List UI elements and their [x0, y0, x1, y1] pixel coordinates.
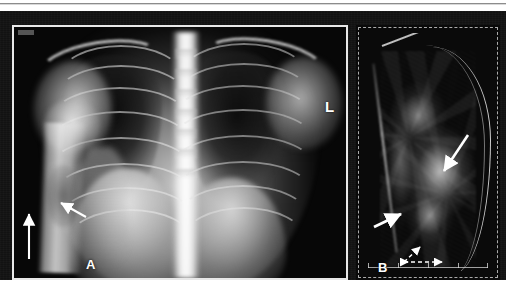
ultrasound-image: [366, 33, 494, 271]
ruler-tick: [368, 263, 369, 268]
medical-figure: L A: [0, 0, 506, 286]
panel-a-label: A: [86, 258, 95, 271]
panel-b-label: B: [378, 261, 387, 274]
exposure-tag: [18, 30, 34, 35]
ruler-tick: [458, 263, 459, 268]
bone-lesion: [46, 165, 80, 227]
side-marker-l: L: [325, 99, 335, 114]
ruler-tick: [428, 263, 429, 268]
chest-xray-image: L A: [14, 27, 346, 278]
panel-b-ultrasound: B: [356, 25, 500, 280]
panel-a-chest-radiograph: L A: [12, 25, 348, 280]
ruler-tick: [487, 263, 488, 268]
axillary-soft-tissue: [76, 147, 128, 267]
figure-plate: L A: [0, 11, 506, 280]
skin-surface-line-outer: [384, 45, 485, 271]
rib: [182, 207, 306, 273]
header-rule-shadow: [0, 4, 506, 5]
ruler-tick: [398, 263, 399, 268]
